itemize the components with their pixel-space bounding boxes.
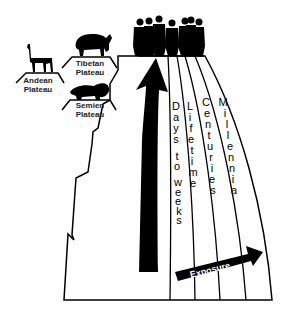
svg-text:o: o	[174, 160, 180, 172]
llama-icon	[27, 44, 53, 72]
svg-text:i: i	[150, 135, 153, 146]
svg-text:u: u	[147, 157, 153, 168]
svg-text:s: s	[176, 214, 182, 226]
svg-text:s: s	[210, 184, 216, 196]
svg-text:Tibetan: Tibetan	[76, 59, 104, 68]
people-group-icon	[133, 16, 205, 57]
andean-plateau: Andean Plateau	[16, 44, 64, 94]
svg-text:a: a	[231, 184, 238, 196]
svg-text:Andean: Andean	[23, 76, 52, 85]
gelada-icon	[70, 83, 109, 100]
svg-text:A: A	[148, 101, 155, 112]
svg-text:Plateau: Plateau	[76, 68, 105, 77]
svg-text:e: e	[190, 177, 196, 189]
svg-text:s: s	[173, 133, 179, 145]
yak-icon	[76, 34, 112, 56]
svg-text:Semien: Semien	[76, 101, 105, 110]
svg-text:Plateau: Plateau	[24, 85, 53, 94]
svg-text:l: l	[150, 113, 153, 124]
altitude-exposure-diagram: A l t i t u d e D a y s t o w e e k s L …	[0, 0, 285, 309]
svg-text:Plateau: Plateau	[76, 110, 105, 119]
svg-text:e: e	[146, 179, 152, 190]
svg-text:d: d	[146, 168, 152, 179]
tibetan-plateau: Tibetan Plateau	[62, 34, 117, 77]
